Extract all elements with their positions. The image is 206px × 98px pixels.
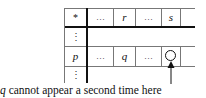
corner-cell: * xyxy=(65,9,86,26)
header-ellipsis: … xyxy=(136,9,161,26)
row-ellipsis: … xyxy=(136,47,161,66)
column-line xyxy=(161,46,162,66)
header-r: r xyxy=(114,9,135,26)
vertical-ellipsis: ⋮ xyxy=(65,67,86,82)
row-q: q xyxy=(114,47,135,66)
arrow-up-icon xyxy=(166,60,176,84)
row-label-p: p xyxy=(65,47,86,66)
column-line xyxy=(180,46,181,66)
caption: q cannot appear a second time here xyxy=(0,84,206,96)
header-ellipsis: … xyxy=(88,9,113,26)
header-s: s xyxy=(162,9,180,26)
caption-text: cannot appear a second time here xyxy=(6,84,162,96)
column-line xyxy=(180,8,181,26)
row-ellipsis: … xyxy=(88,47,113,66)
vertical-ellipsis: ⋮ xyxy=(65,28,86,46)
